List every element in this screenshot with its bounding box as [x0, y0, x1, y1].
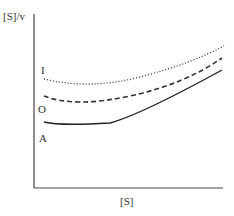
- x-axis-label: [S]: [120, 195, 133, 207]
- curve-a-label: A: [39, 132, 47, 144]
- curve-a: [44, 70, 222, 124]
- chart: [S]/v [S] I O A: [0, 0, 234, 216]
- y-axis-label: [S]/v: [3, 10, 26, 22]
- curve-i: [44, 46, 224, 84]
- curve-o: [44, 58, 222, 102]
- curve-i-label: I: [41, 64, 45, 76]
- curve-o-label: O: [38, 103, 46, 115]
